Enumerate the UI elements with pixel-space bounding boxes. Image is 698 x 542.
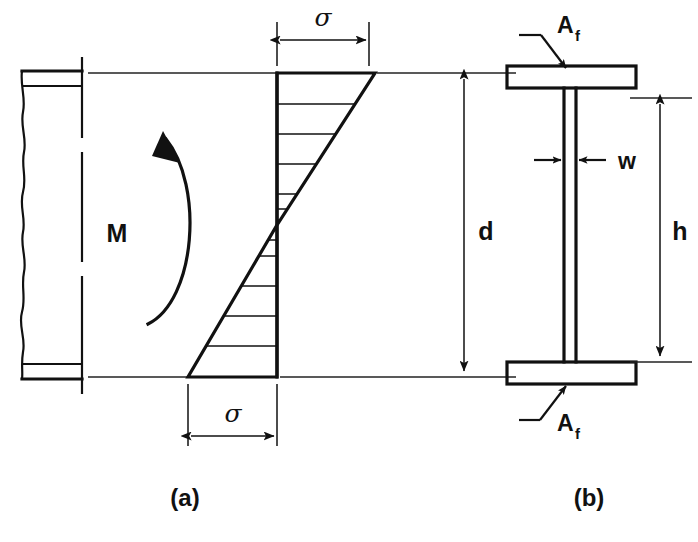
height-label: h [672,217,687,245]
caption-a: (a) [170,484,199,511]
depth-label: d [478,217,493,245]
figure-root: M [0,0,698,542]
web-thickness-label: w [617,148,636,174]
engineering-diagram: M [0,0,698,542]
sigma-top-label: σ [314,3,332,32]
af-bottom-label: A [557,410,574,436]
caption-b: (b) [574,484,605,511]
sigma-bottom-label: σ [224,399,242,428]
canvas-background [0,0,698,542]
moment-label: M [107,219,128,247]
af-top-label: A [557,12,574,38]
